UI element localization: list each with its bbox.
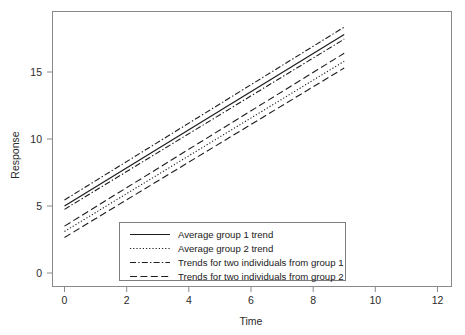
x-tick-label-2: 2: [124, 294, 130, 306]
x-axis-title: Time: [240, 315, 263, 327]
y-tick-label-0: 0: [36, 267, 42, 279]
x-tick-label-4: 4: [186, 294, 192, 306]
chart-legend[interactable]: Average group 1 trend Average group 2 tr…: [120, 223, 346, 283]
x-tick-label-6: 6: [248, 294, 254, 306]
chart-figure: 0 2 4 6 8 10 12 0 5 10 15 Time Response: [0, 0, 465, 335]
x-axis-ticks: [65, 287, 438, 292]
y-axis-title: Response: [9, 131, 21, 178]
x-axis-tick-labels: 0 2 4 6 8 10 12: [62, 294, 444, 306]
series-line-group2-average: [65, 61, 345, 231]
y-axis-tick-labels: 0 5 10 15: [30, 66, 42, 279]
legend-label-individuals-group-2: Trends for two individuals from group 2: [178, 271, 343, 282]
y-tick-label-10: 10: [30, 133, 42, 145]
x-tick-label-12: 12: [432, 294, 444, 306]
y-tick-label-15: 15: [30, 66, 42, 78]
series-line-group2-individual-upper: [65, 53, 345, 226]
series-line-group1-individual-upper: [65, 27, 345, 200]
legend-label-individuals-group-1: Trends for two individuals from group 1: [178, 257, 343, 268]
legend-label-average-group-2: Average group 2 trend: [178, 243, 273, 254]
x-tick-label-0: 0: [62, 294, 68, 306]
chart-plot-area: 0 2 4 6 8 10 12 0 5 10 15 Time Response: [0, 0, 465, 335]
y-tick-label-5: 5: [36, 200, 42, 212]
series-line-group1-individual-lower: [65, 39, 345, 209]
series-line-group2-individual-lower: [65, 68, 345, 238]
x-tick-label-10: 10: [369, 294, 381, 306]
y-axis-ticks: [47, 72, 53, 273]
series-line-group1-average: [65, 34, 345, 206]
x-tick-label-8: 8: [310, 294, 316, 306]
legend-label-average-group-1: Average group 1 trend: [178, 229, 273, 240]
